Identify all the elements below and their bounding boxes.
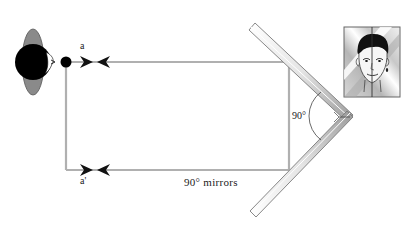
ray-label-a-prime: a' — [80, 175, 86, 186]
diagram-canvas: a a' 90° 90° mirrors — [0, 0, 418, 231]
upper-mirror — [249, 23, 353, 122]
ray-paths — [66, 62, 289, 170]
angle-label: 90° — [292, 110, 306, 121]
lower-mirror — [250, 111, 353, 217]
observer-head-icon — [15, 29, 55, 95]
ray-label-a: a — [80, 40, 84, 51]
caption-label: 90° mirrors — [184, 176, 238, 188]
eye-point — [61, 57, 72, 68]
reflected-face-image — [344, 27, 400, 97]
